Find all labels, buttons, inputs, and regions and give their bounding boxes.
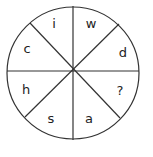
segment-label-top-right: w [86,16,97,31]
segment-label-left-upper: c [23,41,30,56]
segment-label-left-lower: h [22,82,30,97]
segment-label-bottom-right: a [85,111,93,126]
segment-label-bottom-left: s [48,111,55,126]
segment-label-right-lower: ? [117,83,124,98]
letter-wheel: i w d ? a s h c [0,0,153,157]
segment-label-top-left: i [52,16,56,31]
segment-label-right-upper: d [119,45,127,60]
